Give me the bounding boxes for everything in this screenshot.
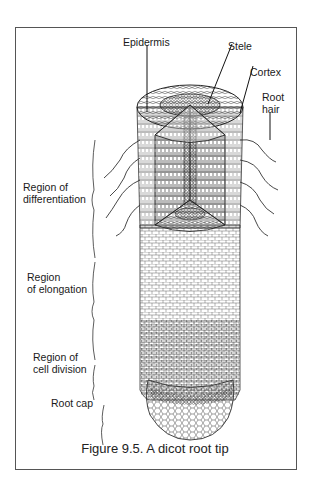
label-stele: Stele [228,40,252,52]
label-cortex: Cortex [250,66,281,78]
root-body [137,85,243,440]
label-root-cap: Root cap [51,397,93,409]
label-region-differentiation: Region of differentiation [23,181,86,205]
label-region-cell-division: Region of cell division [33,351,87,375]
label-root-hair: Root hair [262,91,284,115]
figure-caption: Figure 9.5. A dicot root tip [0,441,310,456]
label-epidermis: Epidermis [123,36,170,48]
region-braces [92,140,104,445]
label-region-elongation: Region of elongation [27,271,87,295]
root-cap-shape [146,380,233,440]
